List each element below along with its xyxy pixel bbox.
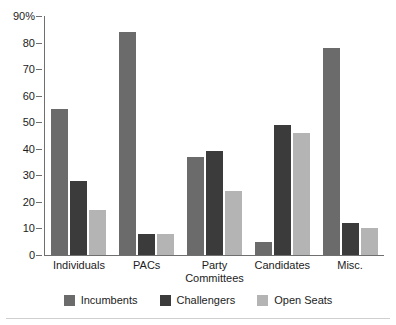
y-tick-mark bbox=[36, 228, 42, 229]
chart-legend: IncumbentsChallengersOpen Seats bbox=[0, 292, 396, 308]
bar bbox=[138, 234, 155, 255]
bar bbox=[361, 228, 378, 255]
bar bbox=[157, 234, 174, 255]
y-tick-mark bbox=[36, 255, 42, 256]
bar-group bbox=[187, 0, 242, 256]
legend-item[interactable]: Challengers bbox=[160, 295, 236, 306]
y-tick-label: 0 bbox=[29, 250, 35, 261]
bar bbox=[119, 32, 136, 255]
legend-item[interactable]: Open Seats bbox=[257, 295, 332, 306]
y-tick-mark bbox=[36, 122, 42, 123]
bar bbox=[274, 125, 291, 255]
bar bbox=[255, 242, 272, 255]
bar bbox=[187, 157, 204, 255]
bar-chart-figure: 0102030405060708090% IndividualsPACsPart… bbox=[0, 0, 396, 325]
bar bbox=[342, 223, 359, 255]
y-tick-label: 60 bbox=[23, 90, 35, 101]
bar bbox=[323, 48, 340, 255]
bar bbox=[70, 181, 87, 255]
bar-group bbox=[255, 0, 310, 256]
bar-group bbox=[323, 0, 378, 256]
y-tick-label: 80 bbox=[23, 37, 35, 48]
bars-area bbox=[45, 0, 384, 256]
legend-swatch-icon bbox=[64, 295, 75, 306]
y-tick-mark bbox=[36, 96, 42, 97]
plot-area: 0102030405060708090% bbox=[0, 0, 396, 262]
y-tick-label: 40 bbox=[23, 143, 35, 154]
bottom-divider bbox=[6, 318, 390, 319]
y-tick-label: 90% bbox=[13, 11, 35, 22]
y-tick-mark bbox=[36, 149, 42, 150]
bar bbox=[293, 133, 310, 255]
x-axis-category-labels: IndividualsPACsParty CommitteesCandidate… bbox=[45, 259, 384, 293]
y-tick-label: 70 bbox=[23, 64, 35, 75]
y-tick-mark bbox=[36, 16, 42, 17]
bar bbox=[51, 109, 68, 255]
x-category-label: Candidates bbox=[248, 259, 316, 272]
y-tick-mark bbox=[36, 43, 42, 44]
legend-swatch-icon bbox=[257, 295, 268, 306]
y-tick-label: 10 bbox=[23, 223, 35, 234]
x-category-label: Individuals bbox=[45, 259, 113, 272]
bar bbox=[206, 151, 223, 255]
x-category-label: Party Committees bbox=[181, 259, 249, 285]
x-category-label: Misc. bbox=[316, 259, 384, 272]
legend-item[interactable]: Incumbents bbox=[64, 295, 138, 306]
legend-swatch-icon bbox=[160, 295, 171, 306]
y-tick-mark bbox=[36, 202, 42, 203]
y-tick-label: 20 bbox=[23, 196, 35, 207]
y-tick-mark bbox=[36, 69, 42, 70]
y-tick-label: 30 bbox=[23, 170, 35, 181]
y-axis: 0102030405060708090% bbox=[0, 0, 44, 262]
legend-label: Open Seats bbox=[274, 295, 332, 306]
bar-group bbox=[119, 0, 174, 256]
legend-label: Incumbents bbox=[81, 295, 138, 306]
bar-group bbox=[51, 0, 106, 256]
y-tick-label: 50 bbox=[23, 117, 35, 128]
bar bbox=[89, 210, 106, 255]
bar bbox=[225, 191, 242, 255]
y-tick-mark bbox=[36, 175, 42, 176]
legend-label: Challengers bbox=[177, 295, 236, 306]
x-category-label: PACs bbox=[113, 259, 181, 272]
